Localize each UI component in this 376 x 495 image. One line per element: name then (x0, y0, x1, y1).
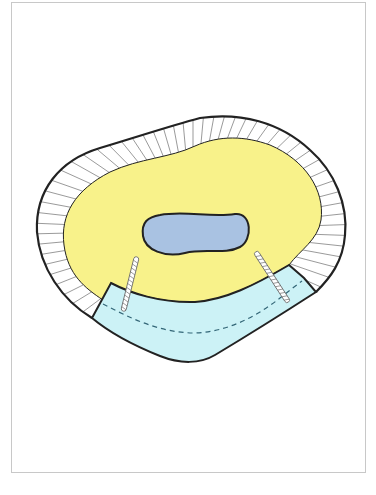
central-canal (143, 213, 249, 254)
cross-section-diagram (0, 0, 376, 495)
